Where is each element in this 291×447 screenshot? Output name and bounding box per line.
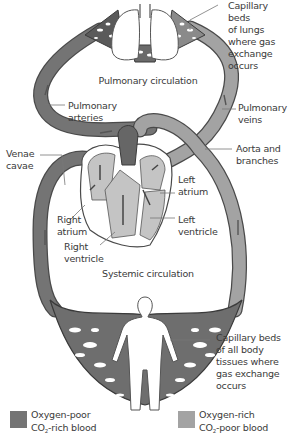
heart-illustration <box>80 126 171 247</box>
label-capillary-body: Capillary beds of all body tissues where… <box>216 332 281 392</box>
legend-item-oxygen-poor: Oxygen-poor CO2-rich blood <box>31 409 96 437</box>
label-pulmonary-circulation: Pulmonary circulation <box>88 75 208 87</box>
label-systemic-circulation: Systemic circulation <box>88 268 208 280</box>
legend-line2: CO2-rich blood <box>31 422 96 438</box>
legend-item-oxygen-rich: Oxygen-rich CO2-poor blood <box>199 409 268 437</box>
label-aorta: Aorta and branches <box>236 143 281 167</box>
label-left-ventricle: Left ventricle <box>178 214 218 238</box>
label-pulmonary-arteries: Pulmonary arteries <box>68 100 117 124</box>
label-capillary-lungs: Capillary beds of lungs where gas exchan… <box>228 0 291 72</box>
label-venae-cavae: Venae cavae <box>6 148 34 172</box>
label-pulmonary-veins: Pulmonary veins <box>238 102 287 126</box>
label-right-atrium: Right atrium <box>57 214 87 238</box>
legend-swatch-oxygen-poor <box>10 411 27 428</box>
legend-line2: CO2-poor blood <box>199 422 268 438</box>
legend-line1: Oxygen-poor <box>31 409 96 422</box>
label-right-ventricle: Right ventricle <box>64 241 104 265</box>
legend-line1: Oxygen-rich <box>199 409 268 422</box>
lung-capillary-bed <box>85 10 205 62</box>
label-left-atrium: Left atrium <box>178 174 208 198</box>
legend-swatch-oxygen-rich <box>178 411 195 428</box>
